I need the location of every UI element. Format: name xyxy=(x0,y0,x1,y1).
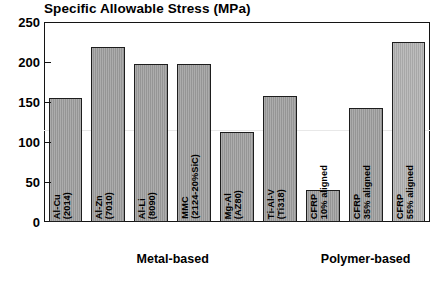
y-axis-tick-label: 250 xyxy=(18,15,40,30)
bar-category-label: CFRP 10% aligned xyxy=(310,165,330,219)
bar-category-label: Al-Cu (2014) xyxy=(53,192,73,219)
bar-category-label: MMC (2124-20%SiC) xyxy=(181,154,201,219)
y-axis-tick-label: 200 xyxy=(18,55,40,70)
y-axis-tick-label: 100 xyxy=(18,135,40,150)
bar-category-label: Al-Li (8090) xyxy=(138,192,158,219)
y-axis-tick-mark xyxy=(44,182,51,183)
bar-category-label: CFRP 35% aligned xyxy=(353,165,373,219)
plot-area: Al-Cu (2014)Al-Zn (7010)Al-Li (8090)MMC … xyxy=(44,22,430,222)
bar-category-label: Mg-Al (AZ80) xyxy=(224,190,244,219)
y-axis-tick-mark xyxy=(44,62,51,63)
bar-category-label: Al-Zn (7010) xyxy=(95,192,115,219)
chart-title: Specific Allowable Stress (MPa) xyxy=(44,1,251,16)
y-axis-tick-labels: 250200150100500 xyxy=(0,0,40,287)
y-axis-tick-mark xyxy=(44,102,51,103)
bar-chart: Specific Allowable Stress (MPa) 25020015… xyxy=(0,0,440,287)
y-axis-tick-mark xyxy=(44,142,51,143)
bar-category-label: CFRP 55% aligned xyxy=(396,165,416,219)
group-label: Polymer-based xyxy=(321,252,411,266)
y-axis-tick-label: 0 xyxy=(33,215,40,230)
y-axis-tick-label: 150 xyxy=(18,95,40,110)
bar-category-label: Ti-Al-V (Ti318) xyxy=(267,189,287,219)
y-axis-tick-label: 50 xyxy=(26,175,40,190)
group-label: Metal-based xyxy=(137,252,209,266)
